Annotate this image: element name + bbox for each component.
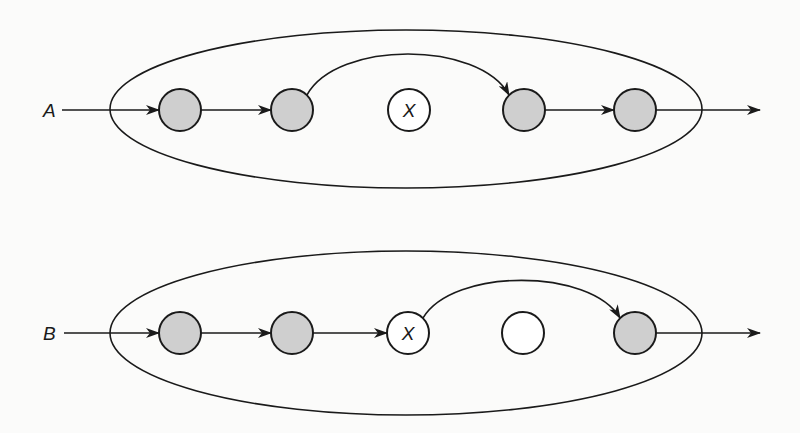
node-shaded xyxy=(614,89,656,131)
node-shaded xyxy=(614,312,656,354)
node-x-label: X xyxy=(402,100,417,121)
node-shaded xyxy=(271,312,313,354)
node-shaded xyxy=(159,89,201,131)
diagram-canvas: AX BX xyxy=(0,0,800,433)
diagram-a: AX xyxy=(42,30,760,188)
node-shaded xyxy=(503,89,545,131)
diagram-label-a: A xyxy=(42,100,56,121)
node-shaded xyxy=(271,89,313,131)
diagram-b: BX xyxy=(43,251,760,415)
node-shaded xyxy=(159,312,201,354)
node-empty xyxy=(502,312,544,354)
node-x-label: X xyxy=(401,323,416,344)
diagram-label-b: B xyxy=(43,323,56,344)
